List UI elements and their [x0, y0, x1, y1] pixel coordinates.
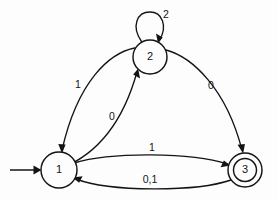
fsm-canvas: 1 0 0 1 0,1 2	[0, 0, 277, 200]
transition-2-to-1-path	[62, 48, 135, 150]
transition-1-to-3-label: 1	[149, 141, 155, 153]
state-2-label: 2	[147, 50, 153, 62]
start-arrow	[10, 165, 42, 174]
transition-2-to-1: 1	[58, 48, 134, 154]
transition-2-to-3-arrowhead	[238, 144, 245, 154]
state-1-label: 1	[56, 163, 62, 175]
transition-2-to-1-label: 1	[75, 78, 81, 90]
transition-2-to-3: 0	[166, 50, 245, 154]
state-node-3[interactable]: 3	[228, 153, 262, 187]
transition-2-to-2-label: 2	[163, 8, 169, 20]
transition-1-to-3-path	[74, 155, 227, 164]
transition-2-to-2-self-loop: 2	[136, 8, 169, 44]
state-node-1[interactable]: 1	[41, 152, 77, 188]
transition-2-to-3-label: 0	[208, 79, 214, 91]
transition-1-to-2-path	[62, 72, 137, 168]
transition-1-to-2-label: 0	[109, 110, 115, 122]
transition-1-to-2: 0	[62, 68, 140, 168]
state-node-2[interactable]: 2	[133, 40, 167, 74]
transition-3-to-1: 0,1	[73, 173, 231, 189]
transition-3-to-1-label: 0,1	[143, 173, 158, 185]
transition-2-to-3-path	[166, 50, 242, 150]
state-3-label: 3	[242, 163, 248, 175]
state-diagram: 1 0 0 1 0,1 2	[0, 0, 277, 200]
